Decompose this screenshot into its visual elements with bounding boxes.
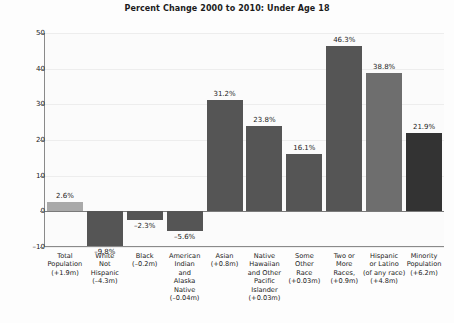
y-axis-tick-mark	[40, 211, 44, 212]
bar-value-label: –9.8%	[75, 248, 135, 256]
gridline	[45, 33, 444, 34]
y-axis-tick-mark	[40, 140, 44, 141]
bar-value-label: 23.8%	[234, 116, 294, 124]
bar-chart: Percent Change 2000 to 2010: Under Age 1…	[0, 0, 454, 323]
category-label-line: Alaska	[162, 277, 208, 285]
bar[interactable]	[366, 73, 402, 211]
category-label-line: Native	[162, 286, 208, 294]
category-label-line: Islander	[242, 286, 288, 294]
category-label-line: (+6.2m)	[401, 269, 447, 277]
bar-value-label: 31.2%	[195, 90, 255, 98]
category-label-line: (–4.3m)	[82, 277, 128, 285]
x-axis-category-label: MinorityPopulation(+6.2m)	[401, 252, 447, 277]
bar-value-label: 46.3%	[314, 36, 374, 44]
category-label-line: Population	[401, 260, 447, 268]
bar-value-label: 38.8%	[354, 63, 414, 71]
y-axis-tick-mark	[40, 33, 44, 34]
chart-title: Percent Change 2000 to 2010: Under Age 1…	[0, 4, 454, 13]
bar-value-label: 2.6%	[35, 192, 95, 200]
bar[interactable]	[286, 154, 322, 211]
category-label-line: and	[162, 269, 208, 277]
bar-value-label: 21.9%	[394, 123, 454, 131]
y-axis-tick-mark	[40, 247, 44, 248]
bar[interactable]	[326, 46, 362, 211]
bar[interactable]	[167, 211, 203, 231]
bar-value-label: –5.6%	[155, 233, 215, 241]
category-label-line: Hispanic	[82, 269, 128, 277]
category-label-line: (–0.04m)	[162, 294, 208, 302]
bar[interactable]	[47, 202, 83, 211]
category-label-line: (+0.03m)	[242, 294, 288, 302]
bar[interactable]	[246, 126, 282, 211]
y-axis-tick-mark	[40, 104, 44, 105]
y-axis-tick-mark	[40, 176, 44, 177]
y-axis-tick-mark	[40, 69, 44, 70]
y-axis-ticks: –1001020304050	[0, 0, 45, 323]
bar[interactable]	[127, 211, 163, 219]
category-label-line: Minority	[401, 252, 447, 260]
category-label-line: (+4.8m)	[361, 277, 407, 285]
bar[interactable]	[406, 133, 442, 211]
